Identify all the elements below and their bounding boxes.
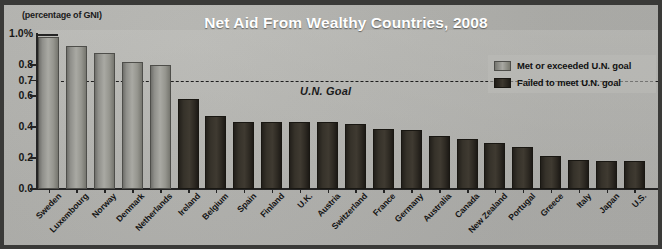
x-axis-category-label: Germany [393, 191, 426, 224]
y-axis-tick-label: 1.0% [9, 27, 33, 39]
bar [178, 99, 199, 189]
bar [94, 53, 115, 189]
x-axis-tick-mark [355, 189, 357, 193]
x-axis-category-label: Japan [597, 191, 621, 215]
x-axis-tick-mark [439, 189, 441, 193]
bar [624, 161, 645, 189]
bar [568, 160, 589, 189]
legend-item-met: Met or exceeded U.N. goal [494, 59, 631, 72]
bar [289, 122, 310, 189]
x-axis-tick-mark [467, 189, 469, 193]
chart-container: (percentage of GNI) Net Aid From Wealthy… [0, 0, 662, 249]
bar [317, 122, 338, 189]
x-axis-tick-mark [411, 189, 413, 193]
x-axis-tick-mark [188, 189, 190, 193]
x-axis-category-label: France [371, 191, 397, 218]
legend-swatch-failed-icon [494, 78, 511, 88]
x-axis-tick-mark [216, 189, 218, 193]
bar [401, 130, 422, 189]
bar [261, 122, 282, 189]
bar [205, 116, 226, 189]
x-axis-tick-mark [300, 189, 302, 193]
x-axis-tick-mark [132, 189, 134, 193]
chart-legend: Met or exceeded U.N. goal Failed to meet… [488, 55, 656, 93]
bar [429, 136, 450, 189]
bar [66, 46, 87, 189]
bar [596, 161, 617, 189]
bar [484, 143, 505, 190]
bar [457, 139, 478, 189]
x-axis-tick-mark [495, 189, 497, 193]
x-axis-category-label: U.K. [295, 191, 314, 210]
bar [150, 65, 171, 189]
legend-swatch-met-icon [494, 61, 511, 71]
bar [38, 37, 59, 189]
x-axis-tick-mark [634, 189, 636, 193]
x-axis-tick-mark [579, 189, 581, 193]
bar [373, 129, 394, 189]
x-axis-tick-mark [244, 189, 246, 193]
x-axis-tick-mark [160, 189, 162, 193]
x-axis-category-label: Spain [235, 191, 258, 214]
x-axis-category-label: Greece [538, 191, 565, 218]
bar [512, 147, 533, 189]
x-axis-category-label: Finland [258, 191, 286, 219]
x-axis-tick-mark [104, 189, 106, 193]
x-axis-category-label: Belgium [200, 191, 230, 222]
y-axis-labels: 1.0%0.80.70.60.40.20.0 [0, 0, 33, 249]
bar [345, 124, 366, 189]
x-axis-category-label: Australia [421, 191, 453, 224]
bar [233, 122, 254, 189]
bar [540, 156, 561, 189]
x-axis-tick-mark [523, 189, 525, 193]
x-axis-tick-mark [551, 189, 553, 193]
x-axis-category-label: Portugal [506, 191, 537, 222]
x-axis-tick-mark [49, 189, 51, 193]
frame-right-border [658, 0, 662, 249]
x-axis-tick-mark [328, 189, 330, 193]
x-axis-category-label: U.S. [630, 191, 649, 210]
x-axis-category-label: Ireland [176, 191, 202, 218]
legend-item-failed: Failed to meet U.N. goal [494, 76, 621, 89]
frame-top-border [0, 0, 662, 5]
legend-label-met: Met or exceeded U.N. goal [517, 60, 631, 71]
x-axis-tick-mark [607, 189, 609, 193]
x-axis-tick-mark [383, 189, 385, 193]
x-axis-category-labels: SwedenLuxembourgNorwayDenmarkNetherlands… [36, 191, 658, 249]
x-axis-category-label: Italy [574, 191, 593, 210]
bar-series [36, 30, 658, 189]
x-axis-tick-mark [76, 189, 78, 193]
x-axis-tick-mark [272, 189, 274, 193]
bar [122, 62, 143, 189]
legend-label-failed: Failed to meet U.N. goal [517, 77, 621, 88]
